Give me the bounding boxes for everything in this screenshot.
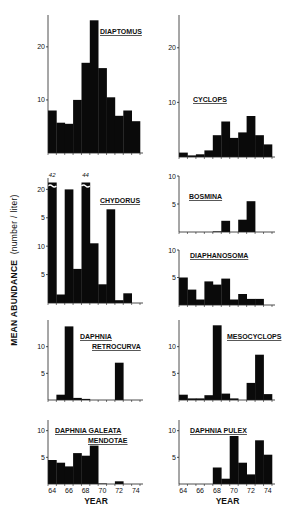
bar [196, 300, 205, 306]
bar [90, 243, 99, 303]
bar [255, 299, 264, 305]
x-axis-label: YEAR [216, 496, 240, 506]
bar [255, 440, 264, 484]
y-tick-label: 5 [41, 454, 45, 461]
bar [179, 153, 188, 157]
panel-mesocyclops: 510MESOCYCLOPS [168, 320, 282, 402]
bar [56, 295, 65, 304]
x-tick-label: 66 [196, 487, 204, 494]
x-tick-label: 74 [264, 487, 272, 494]
y-tick-label: 20 [37, 186, 45, 193]
bar [65, 466, 74, 484]
bar [247, 383, 256, 400]
x-axis-label: YEAR [84, 496, 108, 506]
broken-bar-value: 42 [49, 172, 56, 178]
bar [204, 281, 213, 305]
bar [255, 355, 264, 400]
panel-title: DAPHNIA PULEX [190, 427, 247, 434]
bar [213, 325, 222, 400]
broken-bar-value: 44 [82, 172, 89, 178]
panel-cyclops: 1020CYCLOPS [168, 15, 275, 159]
bar [179, 395, 188, 400]
y-tick-label: 20 [37, 43, 45, 50]
bar [65, 124, 74, 153]
bar [73, 100, 82, 153]
x-tick-label: 74 [132, 487, 140, 494]
bar [238, 294, 247, 305]
bar [115, 300, 124, 303]
bar [115, 363, 124, 400]
y-tick-label: 10 [168, 99, 176, 106]
y-tick-label: 5 [172, 370, 176, 377]
x-tick-label: 68 [213, 487, 221, 494]
x-tick-label: 70 [230, 487, 238, 494]
y-tick-label: 5 [41, 271, 45, 278]
y-tick-label: 10 [37, 343, 45, 350]
figure: MEAN ABUNDANCE (number / liter) 1020DIAP… [0, 0, 290, 515]
y-tick-label: 10 [168, 427, 176, 434]
bar [65, 326, 74, 400]
y-axis-label-main: MEAN ABUNDANCE [9, 260, 19, 346]
bar [247, 201, 256, 232]
y-tick-label: 10 [37, 427, 45, 434]
bar [90, 20, 99, 153]
bar [188, 290, 197, 305]
bar [107, 209, 116, 303]
panel-bosmina: 510BOSMINA [168, 173, 275, 235]
bar [196, 154, 205, 157]
bar [82, 456, 91, 484]
y-tick-label: 5 [41, 214, 45, 221]
bar [48, 460, 57, 484]
panel-title: DAPHNIA GALEATA [55, 427, 121, 434]
y-tick-label: 10 [37, 96, 45, 103]
bar [230, 138, 239, 157]
y-tick-label: 20 [168, 44, 176, 51]
bar [115, 116, 124, 153]
bar [221, 279, 230, 305]
panel-title: CYCLOPS [193, 96, 227, 103]
y-tick-label: 10 [37, 243, 45, 250]
bar [73, 269, 82, 303]
y-tick-label: 10 [168, 343, 176, 350]
panel-title: DIAPTOMUS [100, 28, 142, 35]
bar [213, 135, 222, 157]
y-tick-label: 5 [172, 274, 176, 281]
y-tick-label: 5 [172, 454, 176, 461]
bar [56, 395, 65, 400]
y-tick-label: 5 [41, 370, 45, 377]
bar [98, 68, 107, 153]
bar [264, 455, 273, 484]
panel-title: MESOCYCLOPS [227, 333, 282, 340]
x-tick-label: 72 [115, 487, 123, 494]
bar [221, 394, 230, 400]
y-axis-label: MEAN ABUNDANCE (number / liter) [4, 170, 24, 370]
panel-diaphanosoma: 510DIAPHANOSOMA [168, 247, 275, 308]
x-tick-label: 70 [99, 487, 107, 494]
bar [90, 446, 99, 484]
bar [230, 300, 239, 306]
panel-title: DIAPHANOSOMA [190, 252, 248, 259]
panel-daphnia-pulex: 510646668707274YEARDAPHNIA PULEX [168, 420, 275, 506]
bar [132, 121, 141, 153]
panel-diaptomus: 1020DIAPTOMUS [37, 15, 143, 155]
bar [247, 299, 256, 305]
panel-chydorus: 4244510520CHYDORUS [37, 172, 143, 305]
bar [204, 150, 213, 157]
bar [65, 189, 74, 303]
y-tick-label: 10 [168, 247, 176, 254]
bar [213, 468, 222, 485]
y-axis-label-unit: (number / liter) [9, 194, 19, 254]
bar [221, 122, 230, 158]
plots-canvas: 1020DIAPTOMUS1020CYCLOPS4244510520CHYDOR… [0, 0, 290, 515]
bar [264, 394, 273, 400]
bar [48, 183, 57, 304]
panel-daphnia-galeata-mendotae: 510646668707274YEARDAPHNIA GALEATAMENDOT… [37, 420, 143, 506]
bar [213, 285, 222, 305]
bar [48, 111, 57, 154]
bar [221, 479, 230, 484]
bar [115, 481, 124, 484]
panel-title: DAPHNIA [80, 333, 112, 340]
bar [247, 116, 256, 157]
bar [179, 278, 188, 306]
bar [238, 132, 247, 157]
